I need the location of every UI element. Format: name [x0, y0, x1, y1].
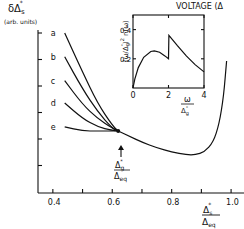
series-label-d: d — [51, 99, 56, 108]
inset-plot: 024 0.20.4 (ω/Δg*)2 n(ω) ω Δg* — [119, 15, 207, 117]
running-title: VOLTAGE (Δ — [176, 2, 224, 11]
svg-text:Δg*: Δg* — [181, 105, 189, 117]
main-y-unit: (arb. units) — [4, 18, 37, 25]
annotation-delta-g: Δg* Δeq — [114, 145, 130, 183]
series-label-a: a — [51, 29, 56, 38]
inset-series-spectrum — [133, 35, 204, 88]
series-line-common — [118, 61, 226, 155]
main-x-tick-label: 0.4 — [48, 198, 61, 207]
inset-x-tick-label: 0 — [131, 91, 136, 100]
series-line-a — [65, 33, 119, 131]
svg-text:ω: ω — [184, 95, 191, 104]
series-line-b — [65, 57, 119, 131]
series-label-b: b — [51, 53, 56, 62]
main-x-tick-label: 1.0 — [226, 198, 239, 207]
svg-text:Δs*: Δs* — [203, 201, 212, 216]
annotation-denominator: Δeq — [114, 172, 127, 183]
main-x-tick-label: 0.6 — [107, 198, 120, 207]
svg-text:Δeq: Δeq — [202, 217, 216, 229]
series-label-c: c — [51, 77, 55, 86]
chart-canvas: VOLTAGE (Δ 0.40.60.81.0 abcde δΔs* (arb.… — [0, 0, 244, 229]
arrowhead-icon — [118, 145, 124, 150]
inset-x-tick-label: 2 — [166, 91, 171, 100]
inset-x-tick-label: 4 — [202, 91, 207, 100]
inset-x-label: ω Δg* — [181, 95, 194, 117]
main-y-label: δΔs* — [8, 0, 25, 16]
main-x-label: Δs* Δeq — [202, 201, 220, 229]
main-x-tick-label: 0.8 — [167, 198, 180, 207]
convergence-point — [116, 129, 120, 133]
series-label-e: e — [51, 123, 56, 132]
